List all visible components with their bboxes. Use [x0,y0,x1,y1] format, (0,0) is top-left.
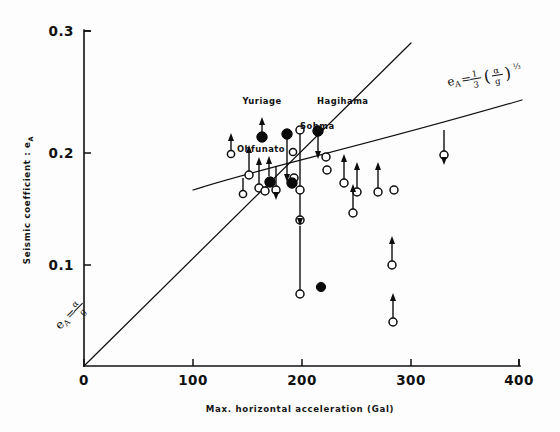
eq-curve-inner-num: α [493,65,500,76]
eq-curve-paren-open: ( [483,66,492,86]
x-tick-label-300: 300 [396,372,426,388]
eq-curve-var: eA [446,73,461,90]
data-point-yuriage [257,117,267,142]
data-point [255,157,263,192]
fit-lines-group [84,43,522,366]
eq-curve-paren-close: ) [503,63,512,83]
open-markers-group [245,126,448,326]
data-point [296,226,304,298]
data-point-ohfunato-b [287,178,297,188]
data-point [390,186,398,194]
data-point [239,178,246,198]
linear-fit-line [84,43,411,366]
data-point [289,148,296,155]
y-axis-title: Seismic coefficient : eA [22,136,35,264]
label-hagihama: Hagihama [317,96,369,106]
scatter-plot: 0.3 0.2 0.1 0 100 200 300 400 Max. horiz… [0,0,560,432]
data-point [340,154,348,187]
data-point [388,236,396,269]
x-tick-label-100: 100 [178,372,208,388]
eq-curve-coef-den: 3 [473,79,480,90]
y-tick-label-02: 0.2 [49,145,74,161]
y-axis-title-main: Seismic coefficient : e [22,141,32,264]
eq-linear-den: g [77,306,88,317]
label-sohma: Sohma [300,121,335,131]
x-tick-label-200: 200 [287,372,317,388]
data-point [440,130,448,165]
x-ticks-group: 0 100 200 300 400 [79,359,534,388]
data-point-ohfunato [265,177,275,187]
x-tick-label-0: 0 [79,372,89,388]
y-tick-label-03: 0.3 [49,23,74,39]
figure-container: 0.3 0.2 0.1 0 100 200 300 400 Max. horiz… [0,0,560,432]
x-axis-title: Max. horizontal acceleration (Gal) [206,404,394,414]
data-point [227,133,234,158]
label-yuriage: Yuriage [241,96,281,106]
eq-curve-exponent: ⅓ [512,61,521,71]
data-point [261,187,269,195]
y-axis-title-group: Seismic coefficient : eA [22,136,35,264]
data-point-low [316,282,325,291]
eq-curve-coef-num: 1 [471,68,478,79]
y-tick-label-01: 0.1 [49,257,74,273]
data-point [389,293,397,326]
x-tick-label-400: 400 [504,372,534,388]
cuberoot-equation-annotation: eA = 1 3 ( α g ) ⅓ [446,61,523,93]
data-point [374,162,382,196]
y-axis-title-sub: A [27,136,35,142]
label-ohfunato: Ohfunato [237,144,285,154]
data-point [266,156,272,176]
eq-curve-inner-den: g [494,76,501,87]
data-point [322,153,330,161]
data-point [323,166,331,174]
